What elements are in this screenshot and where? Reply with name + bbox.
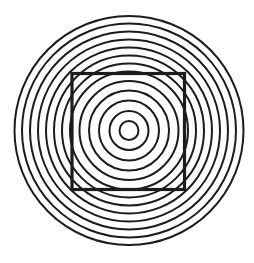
illusion-figure bbox=[0, 0, 254, 263]
